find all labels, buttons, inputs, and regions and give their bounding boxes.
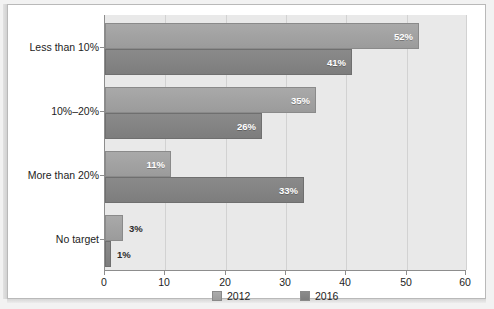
bar-2012-no-target[interactable]: 3% bbox=[105, 215, 123, 241]
bar-value-2016-more-than-20: 33% bbox=[279, 185, 298, 196]
bar-group-less-than-10: 52% 41% bbox=[105, 15, 466, 79]
legend-swatch-2012-icon bbox=[212, 291, 222, 301]
bar-2016-no-target[interactable]: 1% bbox=[105, 241, 111, 267]
legend-label-2012: 2012 bbox=[227, 290, 250, 302]
bar-value-2012-more-than-20: 11% bbox=[147, 159, 166, 170]
chart-area: Less than 10% 10%–20% More than 20% No t… bbox=[8, 5, 487, 300]
legend-label-2016: 2016 bbox=[315, 290, 338, 302]
xtick-mark-20 bbox=[225, 271, 226, 275]
bar-value-2012-10-to-20: 35% bbox=[291, 95, 310, 106]
ytick-label-less-than-10: Less than 10% bbox=[30, 41, 99, 53]
gridline-60 bbox=[466, 15, 467, 270]
xtick-label-10: 10 bbox=[158, 276, 170, 288]
plot-region: 52% 41% 35% 26% bbox=[104, 15, 466, 271]
bar-2012-less-than-10[interactable]: 52% bbox=[105, 23, 419, 49]
chart-panel: Less than 10% 10%–20% More than 20% No t… bbox=[7, 4, 486, 299]
legend-item-2012[interactable]: 2012 bbox=[212, 290, 250, 302]
bar-group-10-to-20: 35% 26% bbox=[105, 79, 466, 143]
bar-group-no-target: 3% 1% bbox=[105, 207, 466, 271]
ytick-label-no-target: No target bbox=[56, 233, 99, 245]
ytick-label-10-to-20: 10%–20% bbox=[51, 105, 99, 117]
chart-screenshot: Less than 10% 10%–20% More than 20% No t… bbox=[0, 0, 494, 309]
xtick-label-40: 40 bbox=[339, 276, 351, 288]
xtick-mark-10 bbox=[164, 271, 165, 275]
legend-swatch-2016-icon bbox=[300, 291, 310, 301]
bar-2012-more-than-20[interactable]: 11% bbox=[105, 151, 171, 177]
bar-2016-less-than-10[interactable]: 41% bbox=[105, 49, 352, 75]
xtick-mark-30 bbox=[285, 271, 286, 275]
xtick-label-20: 20 bbox=[219, 276, 231, 288]
bar-2016-more-than-20[interactable]: 33% bbox=[105, 177, 304, 203]
bar-group-more-than-20: 11% 33% bbox=[105, 143, 466, 207]
xtick-label-50: 50 bbox=[400, 276, 412, 288]
bar-2012-10-to-20[interactable]: 35% bbox=[105, 87, 316, 113]
xtick-label-0: 0 bbox=[101, 276, 107, 288]
xtick-mark-50 bbox=[406, 271, 407, 275]
xtick-mark-0 bbox=[104, 271, 105, 275]
ytick-label-more-than-20: More than 20% bbox=[28, 169, 99, 181]
xtick-mark-40 bbox=[345, 271, 346, 275]
bar-value-2016-10-to-20: 26% bbox=[237, 121, 256, 132]
legend-item-2016[interactable]: 2016 bbox=[300, 290, 338, 302]
legend: 2012 2016 bbox=[8, 290, 487, 304]
bar-2016-10-to-20[interactable]: 26% bbox=[105, 113, 262, 139]
bar-value-2012-less-than-10: 52% bbox=[394, 31, 413, 42]
bar-value-2016-less-than-10: 41% bbox=[327, 57, 346, 68]
xtick-label-30: 30 bbox=[279, 276, 291, 288]
xtick-mark-60 bbox=[465, 271, 466, 275]
bar-value-2012-no-target: 3% bbox=[129, 223, 143, 234]
bar-value-2016-no-target: 1% bbox=[117, 249, 131, 260]
xtick-label-60: 60 bbox=[459, 276, 471, 288]
